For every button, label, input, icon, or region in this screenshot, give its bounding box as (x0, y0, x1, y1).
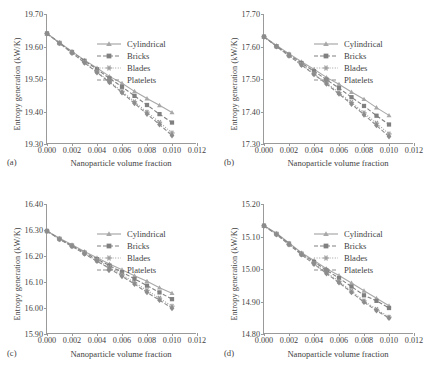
x-axis-tick-label: 0.002 (63, 146, 81, 155)
x-axis-tick-label: 0.000 (38, 336, 56, 345)
legend-label: Platelets (122, 75, 156, 85)
legend-label: Platelets (339, 75, 373, 85)
x-axis-tick-label: 0.002 (63, 336, 81, 345)
data-point (170, 110, 175, 114)
x-axis-tick-label: 0.004 (305, 146, 323, 155)
y-axis-title-wrap-d: Entropy generation (kW/K) (225, 208, 239, 340)
legend-marker-asterisk-icon (96, 62, 122, 74)
data-point (157, 290, 161, 294)
y-axis-tick-label: 16.30 (25, 226, 43, 235)
data-point (145, 96, 150, 100)
figure-four-panel-entropy-generation: Entropy generation (kW/K) 19.3019.4019.5… (0, 0, 434, 381)
legend-item-blades: Blades (96, 62, 166, 74)
data-point (374, 299, 378, 303)
legend-label: Bricks (339, 51, 366, 61)
x-axis-tick-label: 0.012 (405, 336, 423, 345)
panel-tag-a: (a) (7, 157, 17, 167)
x-axis-tick-label: 0.002 (280, 146, 298, 155)
y-axis-tick-label: 17.50 (242, 75, 260, 84)
panel-tag-c: (c) (7, 348, 17, 358)
y-axis-title-wrap-b: Entropy generation (kW/K) (225, 18, 239, 150)
legend-label: Platelets (122, 265, 156, 275)
legend-marker-triangle-icon (96, 38, 122, 50)
legend-marker-asterisk-icon (313, 252, 339, 264)
x-axis-tick-label: 0.000 (255, 336, 273, 345)
legend-marker-diamond-icon (313, 74, 339, 86)
legend-item-platelets: Platelets (313, 74, 383, 86)
x-axis-tick-label: 0.006 (330, 146, 348, 155)
legend-label: Bricks (122, 51, 149, 61)
y-axis-tick-label: 17.60 (242, 42, 260, 51)
x-axis-title-c: Nanoparticle volume fraction (46, 349, 196, 359)
legend-item-blades: Blades (313, 252, 383, 264)
legend-marker-triangle-icon (313, 228, 339, 240)
legend-item-cylindrical: Cylindrical (96, 228, 166, 240)
legend-label: Cylindrical (339, 229, 383, 239)
data-point (387, 113, 392, 117)
y-axis-title-a: Entropy generation (kW/K) (13, 18, 27, 150)
data-point (362, 97, 367, 101)
legend-item-bricks: Bricks (96, 50, 166, 62)
y-axis-tick-label: 17.70 (242, 10, 260, 19)
x-axis-tick-label: 0.000 (38, 146, 56, 155)
x-axis-tick-label: 0.000 (255, 146, 273, 155)
x-axis-tick-label: 0.012 (188, 146, 206, 155)
x-axis-tick-mark (197, 333, 198, 336)
legend-label: Cylindrical (339, 39, 383, 49)
legend-item-cylindrical: Cylindrical (96, 38, 166, 50)
legend-marker-diamond-icon (313, 264, 339, 276)
x-axis-tick-label: 0.008 (355, 336, 373, 345)
x-axis-tick-label: 0.006 (113, 146, 131, 155)
legend-marker-diamond-icon (96, 74, 122, 86)
legend-item-cylindrical: Cylindrical (313, 228, 383, 240)
legend-label: Cylindrical (122, 39, 166, 49)
legend-item-bricks: Bricks (313, 240, 383, 252)
data-point (374, 114, 378, 118)
legend-item-platelets: Platelets (96, 74, 166, 86)
x-axis-tick-label: 0.010 (163, 336, 181, 345)
legend-marker-square-icon (96, 50, 122, 62)
legend-label: Bricks (339, 241, 366, 251)
x-axis-title-b: Nanoparticle volume fraction (263, 158, 413, 168)
panel-b: Entropy generation (kW/K) 17.3017.4017.5… (217, 0, 434, 190)
y-axis-tick-label: 16.10 (25, 278, 43, 287)
data-point (170, 297, 174, 301)
y-axis-tick-label: 15.10 (242, 232, 260, 241)
data-point (362, 299, 367, 305)
panel-tag-d: (d) (224, 348, 234, 358)
data-point (157, 103, 162, 107)
data-point (157, 112, 161, 116)
legend-marker-triangle-icon (313, 38, 339, 50)
legend-marker-asterisk-icon (313, 62, 339, 74)
y-axis-tick-label: 16.20 (25, 252, 43, 261)
legend-label: Blades (339, 253, 367, 263)
data-point (362, 288, 367, 292)
x-axis-tick-mark (197, 143, 198, 146)
data-point (145, 284, 149, 288)
y-axis-tick-label: 15.00 (242, 265, 260, 274)
panel-tag-b: (b) (224, 157, 234, 167)
legend-b: CylindricalBricksBladesPlatelets (313, 38, 383, 86)
y-axis-title-b: Entropy generation (kW/K) (230, 18, 244, 150)
legend-label: Platelets (339, 265, 373, 275)
x-axis-tick-label: 0.006 (330, 336, 348, 345)
legend-item-platelets: Platelets (313, 264, 383, 276)
x-axis-tick-mark (414, 333, 415, 336)
x-axis-tick-label: 0.002 (280, 336, 298, 345)
y-axis-tick-label: 19.70 (25, 10, 43, 19)
y-axis-tick-label: 14.90 (242, 297, 260, 306)
data-point (337, 86, 341, 90)
legend-label: Blades (122, 63, 150, 73)
legend-item-cylindrical: Cylindrical (313, 38, 383, 50)
x-axis-tick-label: 0.010 (380, 336, 398, 345)
data-point (132, 94, 136, 98)
y-axis-title-wrap-c: Entropy generation (kW/K) (8, 208, 22, 340)
data-point (349, 95, 353, 99)
x-axis-tick-label: 0.010 (380, 146, 398, 155)
legend-marker-triangle-icon (96, 228, 122, 240)
legend-marker-asterisk-icon (96, 252, 122, 264)
x-axis-tick-label: 0.008 (355, 146, 373, 155)
y-axis-tick-label: 16.00 (25, 304, 43, 313)
data-point (132, 89, 137, 93)
data-point (145, 103, 149, 107)
